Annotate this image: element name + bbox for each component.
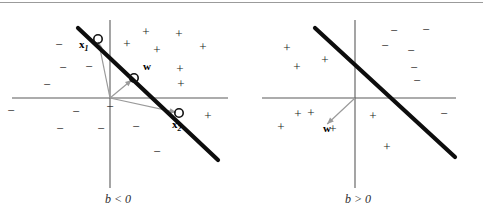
plus-sample-symbol: + xyxy=(383,139,390,154)
minus-sample-symbol: − xyxy=(59,60,66,75)
minus-sample-symbol: − xyxy=(97,121,104,136)
minus-sample-symbol: − xyxy=(132,119,139,134)
minus-sample-symbol: − xyxy=(7,103,14,118)
minus-sample-symbol: − xyxy=(381,38,388,53)
plus-sample-symbol: + xyxy=(204,108,211,123)
panel-caption: b < 0 xyxy=(105,192,131,206)
figure-geometry: ++++++++−−−−−−−−−−−x1wx2b < 0+++++++++−−… xyxy=(0,3,483,207)
minus-sample-symbol: − xyxy=(43,77,50,92)
plus-sample-symbol: + xyxy=(175,26,182,41)
vector-label: x1 xyxy=(79,38,89,53)
figure-container: ++++++++−−−−−−−−−−−x1wx2b < 0+++++++++−−… xyxy=(0,0,483,216)
decision-boundary-line xyxy=(78,28,218,160)
minus-sample-symbol: − xyxy=(56,121,63,136)
svm-bias-figure: ++++++++−−−−−−−−−−−x1wx2b < 0+++++++++−−… xyxy=(0,0,483,216)
plus-sample-symbol: + xyxy=(177,76,184,91)
minus-sample-symbol: − xyxy=(422,22,429,37)
panel-right: +++++++++−−−−−−−wb > 0 xyxy=(262,20,456,206)
minus-sample-symbol: − xyxy=(106,99,113,114)
plus-sample-symbol: + xyxy=(142,24,149,39)
plus-sample-symbol: + xyxy=(307,105,314,120)
point-marker-circle xyxy=(175,109,183,117)
plus-sample-symbol: + xyxy=(123,36,130,51)
plus-sample-symbol: + xyxy=(199,39,206,54)
plus-sample-symbol: + xyxy=(176,61,183,76)
panel-caption: b > 0 xyxy=(345,192,371,206)
vector-label: x2 xyxy=(172,118,182,133)
plus-sample-symbol: + xyxy=(321,52,328,67)
plus-sample-symbol: + xyxy=(153,42,160,57)
minus-sample-symbol: − xyxy=(413,73,420,88)
plus-sample-symbol: + xyxy=(277,119,284,134)
vector-label: w xyxy=(143,60,151,72)
minus-sample-symbol: − xyxy=(407,43,414,58)
plus-sample-symbol: + xyxy=(293,59,300,74)
plus-sample-symbol: + xyxy=(283,40,290,55)
plus-sample-symbol: + xyxy=(294,106,301,121)
plus-sample-symbol: + xyxy=(369,108,376,123)
minus-sample-symbol: − xyxy=(85,59,92,74)
minus-sample-symbol: − xyxy=(153,144,160,159)
minus-sample-symbol: − xyxy=(55,37,62,52)
minus-sample-symbol: − xyxy=(72,104,79,119)
point-marker-circle xyxy=(94,35,102,43)
panel-left: ++++++++−−−−−−−−−−−x1wx2b < 0 xyxy=(7,20,228,206)
minus-sample-symbol: − xyxy=(390,23,397,38)
vector-label: w xyxy=(323,122,331,134)
minus-sample-symbol: − xyxy=(440,106,447,121)
